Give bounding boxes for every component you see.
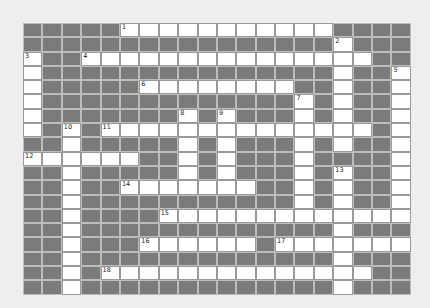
crossword-cell[interactable]: 6 (139, 80, 158, 94)
crossword-cell[interactable] (217, 266, 236, 280)
crossword-cell[interactable] (159, 52, 178, 66)
crossword-cell[interactable] (62, 252, 81, 266)
crossword-cell[interactable] (353, 52, 372, 66)
crossword-cell[interactable] (333, 123, 352, 137)
crossword-cell[interactable] (333, 252, 352, 266)
crossword-cell[interactable] (275, 52, 294, 66)
crossword-cell[interactable] (62, 166, 81, 180)
crossword-cell[interactable] (159, 266, 178, 280)
crossword-cell[interactable] (178, 123, 197, 137)
crossword-cell[interactable] (391, 152, 410, 166)
crossword-cell[interactable] (178, 209, 197, 223)
crossword-cell[interactable] (333, 266, 352, 280)
crossword-cell[interactable] (353, 266, 372, 280)
crossword-cell[interactable] (217, 52, 236, 66)
crossword-cell[interactable] (62, 180, 81, 194)
crossword-cell[interactable] (236, 80, 255, 94)
crossword-cell[interactable] (314, 123, 333, 137)
crossword-cell[interactable] (236, 266, 255, 280)
crossword-cell[interactable] (294, 137, 313, 151)
crossword-cell[interactable] (333, 195, 352, 209)
crossword-cell[interactable]: 4 (81, 52, 100, 66)
crossword-cell[interactable]: 9 (217, 109, 236, 123)
crossword-cell[interactable] (294, 195, 313, 209)
crossword-cell[interactable] (333, 80, 352, 94)
crossword-cell[interactable] (62, 266, 81, 280)
crossword-cell[interactable] (62, 137, 81, 151)
crossword-cell[interactable] (333, 109, 352, 123)
crossword-cell[interactable] (275, 80, 294, 94)
crossword-cell[interactable] (236, 237, 255, 251)
crossword-cell[interactable] (217, 23, 236, 37)
crossword-cell[interactable]: 10 (62, 123, 81, 137)
crossword-cell[interactable] (159, 180, 178, 194)
crossword-cell[interactable] (333, 94, 352, 108)
crossword-cell[interactable] (217, 80, 236, 94)
crossword-cell[interactable] (333, 280, 352, 294)
crossword-cell[interactable] (101, 152, 120, 166)
crossword-cell[interactable] (256, 80, 275, 94)
crossword-cell[interactable] (198, 209, 217, 223)
crossword-cell[interactable] (23, 94, 42, 108)
crossword-cell[interactable] (333, 209, 352, 223)
crossword-cell[interactable] (120, 266, 139, 280)
crossword-cell[interactable] (198, 80, 217, 94)
crossword-cell[interactable] (314, 209, 333, 223)
crossword-cell[interactable] (275, 266, 294, 280)
crossword-cell[interactable] (372, 237, 391, 251)
crossword-cell[interactable] (333, 237, 352, 251)
crossword-cell[interactable] (294, 23, 313, 37)
crossword-cell[interactable] (294, 180, 313, 194)
crossword-cell[interactable] (62, 237, 81, 251)
crossword-cell[interactable] (178, 152, 197, 166)
crossword-cell[interactable] (198, 52, 217, 66)
crossword-cell[interactable] (178, 23, 197, 37)
crossword-cell[interactable] (294, 123, 313, 137)
crossword-cell[interactable] (23, 66, 42, 80)
crossword-cell[interactable]: 17 (275, 237, 294, 251)
crossword-cell[interactable] (256, 123, 275, 137)
crossword-cell[interactable] (391, 109, 410, 123)
crossword-cell[interactable] (275, 123, 294, 137)
crossword-cell[interactable] (333, 223, 352, 237)
crossword-cell[interactable] (178, 237, 197, 251)
crossword-cell[interactable] (120, 52, 139, 66)
crossword-cell[interactable] (178, 266, 197, 280)
crossword-cell[interactable] (256, 209, 275, 223)
crossword-cell[interactable] (198, 180, 217, 194)
crossword-cell[interactable] (236, 23, 255, 37)
crossword-cell[interactable]: 7 (294, 94, 313, 108)
crossword-cell[interactable] (353, 209, 372, 223)
crossword-cell[interactable] (314, 23, 333, 37)
crossword-cell[interactable] (198, 23, 217, 37)
crossword-cell[interactable] (198, 123, 217, 137)
crossword-cell[interactable] (294, 209, 313, 223)
crossword-cell[interactable] (217, 152, 236, 166)
crossword-cell[interactable] (159, 80, 178, 94)
crossword-cell[interactable] (256, 23, 275, 37)
crossword-cell[interactable] (391, 166, 410, 180)
crossword-cell[interactable] (391, 94, 410, 108)
crossword-cell[interactable]: 14 (120, 180, 139, 194)
crossword-cell[interactable] (159, 237, 178, 251)
crossword-cell[interactable] (372, 209, 391, 223)
crossword-cell[interactable] (62, 152, 81, 166)
crossword-cell[interactable] (139, 52, 158, 66)
crossword-cell[interactable] (333, 52, 352, 66)
crossword-cell[interactable] (391, 195, 410, 209)
crossword-cell[interactable] (217, 123, 236, 137)
crossword-cell[interactable] (198, 266, 217, 280)
crossword-cell[interactable] (159, 123, 178, 137)
crossword-cell[interactable] (217, 137, 236, 151)
crossword-cell[interactable] (256, 266, 275, 280)
crossword-cell[interactable] (314, 237, 333, 251)
crossword-cell[interactable] (236, 123, 255, 137)
crossword-cell[interactable] (294, 237, 313, 251)
crossword-cell[interactable] (101, 52, 120, 66)
crossword-cell[interactable] (139, 266, 158, 280)
crossword-cell[interactable] (62, 195, 81, 209)
crossword-cell[interactable] (198, 237, 217, 251)
crossword-cell[interactable] (275, 23, 294, 37)
crossword-cell[interactable] (217, 209, 236, 223)
crossword-cell[interactable] (42, 152, 61, 166)
